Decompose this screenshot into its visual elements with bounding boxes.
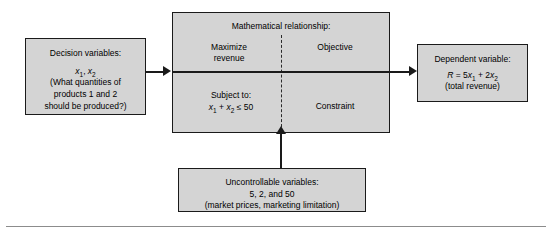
uncontrollable-variables-note: (market prices, marketing limitation): [179, 200, 365, 212]
arrow-up-icon: [276, 126, 286, 134]
uncontrollable-variables-heading: Uncontrollable variables:: [179, 177, 365, 189]
objective-expression: Maximize revenue: [181, 42, 277, 65]
arrow-right-icon: [409, 66, 417, 76]
dependent-variable-heading: Dependent variable:: [418, 54, 527, 66]
objective-label: Objective: [285, 42, 385, 54]
constraint-label: Constraint: [285, 101, 385, 113]
uncontrollable-variables-values: 5, 2, and 50: [179, 189, 365, 201]
decision-variables-line3: should be produced?): [26, 101, 145, 113]
decision-variables-line1: (What quantities of: [26, 77, 145, 89]
constraint-expression: Subject to: x1 + x2 ≤ 50: [181, 89, 281, 114]
arrow-right-icon: [163, 66, 171, 76]
uncontrollable-to-math-connector: [280, 133, 282, 169]
constraint-expression-line1: Subject to:: [211, 90, 251, 100]
constraint-expression-line2: x1 + x2 ≤ 50: [209, 102, 253, 112]
footer-divider: [6, 226, 546, 227]
decision-variables-symbols: x1, x2: [26, 66, 145, 78]
decision-variables-line2: products 1 and 2: [26, 89, 145, 101]
math-box-horizontal-rule: [173, 71, 389, 73]
decision-variables-heading: Decision variables:: [26, 48, 145, 60]
dependent-variable-box: Dependent variable: R = 5x1 + 2x2 (total…: [417, 44, 528, 102]
mathematical-relationship-box: Mathematical relationship: Maximize reve…: [172, 12, 390, 133]
objective-expression-line1: Maximize: [211, 42, 247, 52]
decision-variables-box: Decision variables: x1, x2 (What quantit…: [25, 38, 146, 115]
dependent-variable-note: (total revenue): [418, 81, 527, 93]
diagram-canvas: Decision variables: x1, x2 (What quantit…: [0, 0, 552, 239]
mathematical-relationship-title: Mathematical relationship:: [173, 21, 389, 33]
dependent-variable-equation: R = 5x1 + 2x2: [418, 70, 527, 82]
objective-expression-line2: revenue: [214, 53, 245, 63]
uncontrollable-variables-box: Uncontrollable variables: 5, 2, and 50 (…: [178, 168, 366, 212]
quadrant-dashed-divider: [281, 35, 282, 132]
